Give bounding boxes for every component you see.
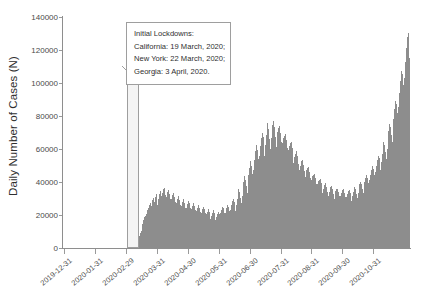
- x-tick-mark: [157, 249, 158, 254]
- y-tick-label: 100000: [0, 79, 58, 88]
- annotation-line-4: Georgia: 3 April, 2020.: [134, 66, 224, 79]
- y-tick-label: 120000: [0, 46, 58, 55]
- x-tick-mark: [342, 249, 343, 254]
- bar: [409, 58, 410, 248]
- y-tick-label: 0: [0, 244, 58, 253]
- x-tick-label: 2020-08-31: [286, 256, 321, 288]
- lockdown-highlight-band: [127, 75, 139, 248]
- x-axis-line: [62, 248, 411, 249]
- x-tick-mark: [95, 249, 96, 254]
- x-tick-label: 2020-05-31: [193, 256, 228, 288]
- x-tick-label: 2020-09-30: [317, 256, 352, 288]
- x-tick-label: 2020-10-31: [348, 256, 383, 288]
- x-tick-mark: [281, 249, 282, 254]
- x-tick-mark: [219, 249, 220, 254]
- x-tick-mark: [126, 249, 127, 254]
- x-tick-label: 2020-02-29: [100, 256, 135, 288]
- y-tick-label: 40000: [0, 178, 58, 187]
- chart-figure: Daily Number of Cases (N) 02000040000600…: [0, 0, 429, 307]
- plot-area: [62, 17, 410, 248]
- x-tick-label: 2020-03-31: [131, 256, 166, 288]
- x-tick-label: 2019-12-31: [39, 256, 74, 288]
- annotation-line-1: Initial Lockdowns:: [134, 28, 224, 41]
- x-tick-mark: [250, 249, 251, 254]
- x-tick-label: 2020-06-30: [224, 256, 259, 288]
- x-tick-label: 2020-07-31: [255, 256, 290, 288]
- x-tick-mark: [373, 249, 374, 254]
- y-tick-label: 140000: [0, 13, 58, 22]
- y-tick-label: 60000: [0, 145, 58, 154]
- annotation-line-3: New York: 22 March, 2020;: [134, 53, 224, 66]
- x-tick-mark: [311, 249, 312, 254]
- annotation-line-2: California: 19 March, 2020;: [134, 41, 224, 54]
- x-tick-label: 2020-04-30: [162, 256, 197, 288]
- x-tick-mark: [188, 249, 189, 254]
- x-tick-mark: [64, 249, 65, 254]
- y-axis-title-text: Daily Number of Cases (N): [7, 56, 19, 196]
- y-tick-label: 80000: [0, 112, 58, 121]
- y-tick-label: 20000: [0, 211, 58, 220]
- y-tick-mark: [59, 248, 62, 249]
- bar-series: [62, 17, 410, 248]
- x-tick-label: 2020-01-31: [70, 256, 105, 288]
- lockdown-annotation-callout: Initial Lockdowns: California: 19 March,…: [126, 22, 231, 85]
